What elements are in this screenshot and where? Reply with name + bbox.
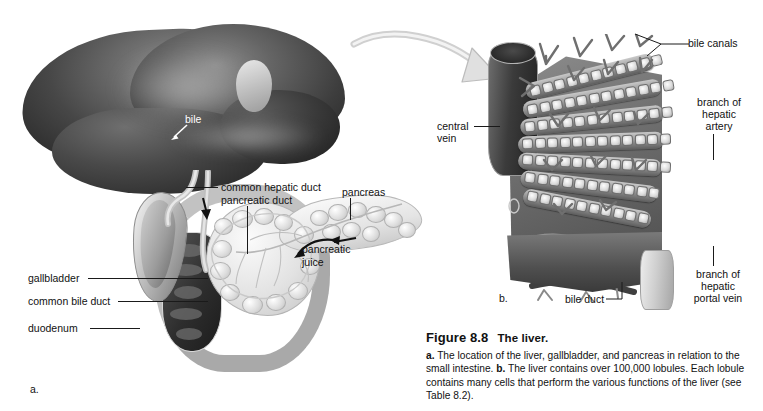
leader-common-hepatic-duct [186,187,218,188]
figure-canvas: bile [0,0,763,411]
leader-bile-canals [625,30,691,68]
caption-b-marker: b. [496,363,505,374]
figure-caption-body: a. The location of the liver, gallbladde… [426,349,756,403]
figure-caption: Figure 8.8The liver. a. The location of … [426,330,756,403]
leader-portal-vein [713,246,714,266]
label-central-vein-line1: central [437,120,469,133]
label-portal-vein-line1: branch of [672,268,763,281]
label-portal-vein-line3: portal vein [672,292,763,305]
label-portal-vein-line2: hepatic [672,280,763,293]
panel-a-marker: a. [30,383,39,395]
label-bile-canals: bile canals [688,37,738,50]
label-hepatic-artery-line3: artery [676,120,762,133]
label-duodenum: duodenum [28,322,78,335]
leader-central-vein [474,126,500,127]
leader-bile-duct [606,280,634,302]
panel-b-marker: b. [499,292,508,304]
label-pancreas: pancreas [342,186,385,199]
label-gallbladder: gallbladder [28,272,79,285]
leader-pancreas [350,198,351,220]
label-pancreatic-juice-line2: juice [302,256,324,269]
figure-heading: Figure 8.8The liver. [426,330,756,345]
figure-number: Figure 8.8 [426,330,488,345]
label-pancreatic-duct: pancreatic duct [221,194,292,207]
leader-gallbladder [88,278,208,279]
label-hepatic-artery-line2: hepatic [676,108,762,121]
leader-common-bile-duct [118,301,208,302]
liver-lobule-illustration [488,34,674,302]
label-pancreatic-juice-line1: pancreatic [302,243,350,256]
leader-pancreatic-duct [247,206,248,254]
label-common-hepatic-duct: common hepatic duct [221,181,321,194]
leader-hepatic-artery [713,134,714,160]
label-bile-duct: bile duct [565,293,604,306]
label-hepatic-artery-line1: branch of [676,96,762,109]
portal-vein-cylinder [640,250,674,310]
label-central-vein-line2: vein [437,132,456,145]
figure-title: The liver. [497,332,548,344]
bile-arrow-icon [169,124,189,140]
caption-a-marker: a. [426,350,435,361]
leader-duodenum [90,328,140,329]
label-common-bile-duct: common bile duct [28,295,110,308]
